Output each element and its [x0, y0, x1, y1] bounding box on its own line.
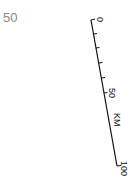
scale-tick	[99, 63, 103, 64]
scale-cap-top	[91, 19, 95, 20]
scale-label-50: 50	[107, 88, 117, 98]
scale-tick	[94, 34, 98, 35]
scale-tick	[96, 48, 100, 49]
scale-tick	[102, 78, 106, 79]
scale-bar: 0 50 KM 100	[0, 0, 136, 185]
scale-label-0: 0	[95, 17, 105, 22]
scale-label-100: 100	[119, 161, 129, 176]
scale-unit-label: KM	[112, 113, 122, 127]
